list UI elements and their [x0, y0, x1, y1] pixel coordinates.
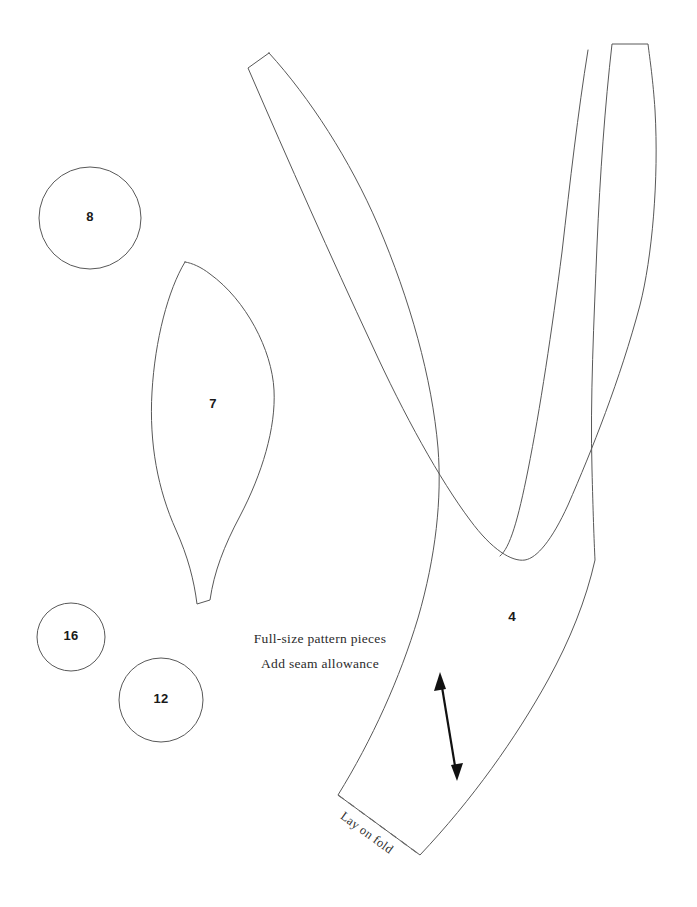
circle-8-number: 8 — [86, 209, 93, 224]
pattern-piece-circle-12: 12 — [119, 658, 203, 742]
bodice-4-number: 4 — [508, 609, 516, 624]
caption-line-2: Add seam allowance — [261, 656, 379, 671]
circle-16-number: 16 — [64, 628, 79, 643]
pattern-piece-circle-8: 8 — [39, 167, 141, 269]
grainline-arrowhead-up — [434, 672, 446, 691]
pattern-piece-petal-7: 7 — [151, 262, 274, 604]
grainline-shaft — [441, 681, 456, 772]
bodice-4-right-strap-inner-edge — [500, 50, 588, 556]
grainline-arrowhead-down — [451, 763, 463, 781]
petal-7-outline — [151, 262, 274, 604]
circle-12-number: 12 — [154, 691, 169, 706]
pattern-piece-bodice-4: 4 — [248, 44, 656, 855]
caption-line-1: Full-size pattern pieces — [254, 631, 386, 646]
pattern-drawing: 8 16 12 7 — [0, 0, 697, 907]
pattern-piece-circle-16: 16 — [37, 603, 105, 671]
pattern-sheet: 8 16 12 7 — [0, 0, 697, 907]
bodice-4-outline — [248, 44, 656, 855]
grainline-arrow — [434, 672, 463, 781]
petal-7-number: 7 — [209, 396, 216, 411]
caption-block: Full-size pattern pieces Add seam allowa… — [254, 631, 386, 671]
